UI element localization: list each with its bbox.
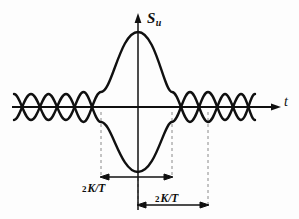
waveform-upper-trace	[14, 32, 255, 122]
waveform-diagram-svg	[0, 0, 299, 219]
x-axis-group	[12, 104, 281, 111]
dimension-label-right-expression: K/T	[161, 192, 179, 204]
y-axis-label-symbol: S	[147, 10, 155, 26]
dimension-label-right-number: 2	[155, 194, 160, 204]
waveform-lower-trace	[14, 92, 255, 172]
y-axis-label-subscript: u	[156, 17, 162, 28]
dimension-label-left-number: 2	[82, 184, 87, 194]
dimension-label-left-expression: K/T	[88, 182, 106, 194]
y-axis-group	[135, 13, 142, 210]
x-axis-arrowhead	[271, 104, 281, 111]
y-axis-label: Su	[147, 10, 161, 28]
dimension-line-left	[100, 174, 173, 180]
y-axis-arrowhead	[135, 13, 142, 23]
x-axis-label: t	[284, 94, 288, 110]
dimension-label-left: 2K/T	[82, 182, 105, 194]
figure-canvas: Su t 2K/T 2K/T	[0, 0, 299, 219]
dimension-label-right: 2K/T	[155, 192, 178, 204]
